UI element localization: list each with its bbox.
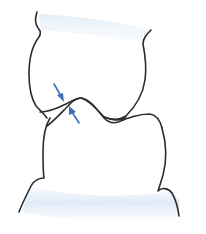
diagram-svg (0, 0, 206, 234)
arrow-head-down-icon (57, 93, 64, 102)
upper-tooth-right-contour (104, 30, 151, 119)
dental-occlusion-diagram (0, 0, 206, 234)
contact-arrow-upper (54, 84, 64, 102)
contact-arrow-lower (69, 106, 79, 123)
lower-gingiva-shade (22, 186, 180, 220)
upper-gingiva-shade (39, 14, 150, 42)
lower-tooth-occlusal-contour (47, 98, 162, 128)
